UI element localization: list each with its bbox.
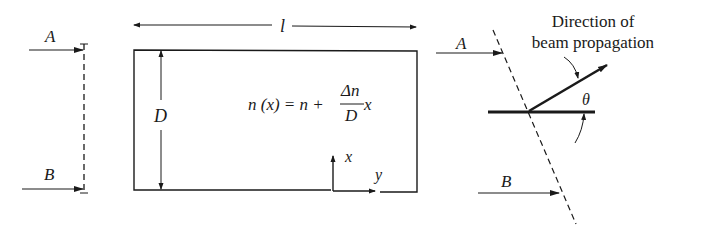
length-label: l xyxy=(280,16,285,36)
angle-arc-top xyxy=(564,57,578,78)
x-axis-label: x xyxy=(344,148,352,165)
tilted-wavefront-line xyxy=(493,30,576,224)
outgoing-wavefront: A B θ Direction of beam propagation xyxy=(436,12,655,224)
equation-rhs: x xyxy=(363,95,372,114)
thickness-label: D xyxy=(153,106,167,126)
direction-label-line2: beam propagation xyxy=(532,33,655,52)
index-equation: n (x) = n + Δn D x xyxy=(248,81,372,125)
angle-theta-label: θ xyxy=(582,91,590,108)
ray-b-label-right: B xyxy=(501,172,512,191)
equation-numerator: Δn xyxy=(340,81,359,100)
angle-arc-bottom xyxy=(575,114,584,143)
beam-direction-arrow xyxy=(529,65,607,111)
prism-wavefront-diagram: A B l D n (x) = n + Δn D x x y xyxy=(0,0,704,233)
ray-a-label: A xyxy=(44,27,56,46)
slab: l D n (x) = n + Δn D x x y xyxy=(134,16,417,192)
ray-a-label-right: A xyxy=(455,34,467,53)
length-dimension-right xyxy=(292,26,416,27)
equation-denominator: D xyxy=(344,106,358,125)
incident-wavefront: A B xyxy=(22,27,88,193)
equation-lhs: n (x) = n + xyxy=(248,95,324,114)
coordinate-axes: x y xyxy=(333,148,383,191)
y-axis-label: y xyxy=(373,166,383,184)
direction-label-line1: Direction of xyxy=(552,12,635,31)
ray-b-label: B xyxy=(44,165,55,184)
